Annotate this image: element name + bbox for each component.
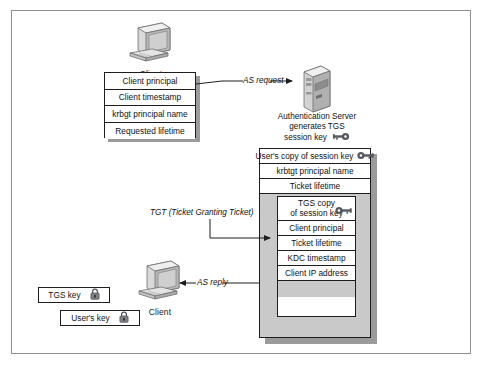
tower-server-icon: [294, 62, 340, 114]
desktop-computer-icon: [124, 20, 178, 68]
key-icon: [332, 132, 350, 144]
padlock-icon: [119, 311, 129, 325]
users-key-label: User's key: [71, 313, 109, 323]
key-icon: [334, 206, 352, 217]
tgs-key-bar: TGS key: [38, 287, 110, 303]
tgt-row-label: Client principal: [289, 223, 343, 233]
tgt-row-client-principal: Client principal: [278, 221, 355, 236]
tgs-key-label: TGS key: [48, 290, 80, 300]
key-icon: [356, 151, 374, 162]
ticket-row-ticket-lifetime: Ticket lifetime: [260, 179, 370, 194]
client-bottom: Client: [133, 258, 187, 316]
tgt-row-label: KDC timestamp: [287, 253, 345, 263]
kerberos-as-exchange-diagram: Client Client principal Client timestamp…: [0, 0, 483, 365]
tgt-box: TGS copy of session key Client principal…: [277, 196, 356, 317]
tgt-row-client-ip: Client IP address: [278, 266, 355, 281]
as-request-row-label: krbgt principal name: [112, 109, 187, 119]
server-caption-line-3: session key: [284, 133, 327, 143]
tgt-row-label: Client IP address: [285, 268, 348, 278]
tgt-row-label: Ticket lifetime: [291, 238, 341, 248]
server-caption-line-1: Authentication Server: [252, 112, 382, 122]
as-request-row-label: Client principal: [123, 76, 178, 86]
as-request-row-label: Requested lifetime: [115, 126, 184, 136]
tgt-row-kdc-timestamp: KDC timestamp: [278, 251, 355, 266]
padlock-icon: [90, 288, 100, 302]
as-reply-ticket-box: User's copy of session key krbtgt princi…: [259, 148, 371, 338]
table-row: Client timestamp: [105, 90, 195, 107]
authentication-server-caption: Authentication Server generates TGS sess…: [252, 112, 382, 145]
as-request-table: Client principal Client timestamp krbgt …: [104, 72, 196, 138]
table-row: krbgt principal name: [105, 106, 195, 123]
client-top: Client: [124, 20, 178, 78]
tgt-row-spacer: [278, 281, 355, 297]
tgt-row-ticket-lifetime: Ticket lifetime: [278, 236, 355, 251]
tgt-row-tgs-copy: TGS copy of session key: [278, 197, 355, 221]
desktop-computer-icon: [133, 258, 187, 306]
ticket-row-label: User's copy of session key: [256, 151, 354, 161]
table-row: Requested lifetime: [105, 123, 195, 140]
tgt-label: TGT (Ticket Granting Ticket): [150, 208, 254, 217]
table-row: Client principal: [105, 73, 195, 90]
ticket-row-label: Ticket lifetime: [290, 181, 340, 191]
ticket-row-label: krbtgt principal name: [276, 166, 353, 176]
users-key-bar: User's key: [60, 310, 140, 326]
as-reply-label: AS reply: [197, 278, 228, 287]
server-caption-line-2: generates TGS: [252, 122, 382, 132]
client-bottom-label: Client: [149, 307, 171, 317]
authentication-server: [294, 62, 340, 114]
as-request-row-label: Client timestamp: [119, 92, 181, 102]
as-request-label: AS request: [243, 76, 284, 85]
ticket-row-users-copy: User's copy of session key: [260, 149, 370, 164]
ticket-row-krbtgt-principal: krbtgt principal name: [260, 164, 370, 179]
